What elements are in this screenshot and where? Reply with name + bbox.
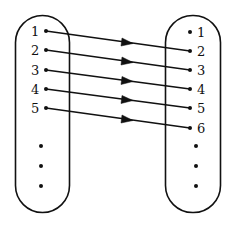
right-set-container: [166, 16, 221, 213]
left-ellipsis-dot: [39, 164, 43, 168]
arrowhead-icon: [121, 38, 133, 46]
right-ellipsis-dot: [194, 184, 198, 188]
left-ellipsis-dot: [39, 184, 43, 188]
right-ellipsis-dot: [194, 144, 198, 148]
arrow-3-to-4: [46, 70, 190, 89]
right-label-3: 3: [197, 63, 205, 78]
right-label-6: 6: [197, 121, 205, 136]
arrowhead-icon: [121, 77, 133, 85]
left-label-1: 1: [31, 24, 39, 39]
left-label-5: 5: [31, 101, 39, 116]
arrow-2-to-3: [46, 50, 190, 70]
arrowhead-icon: [121, 57, 133, 65]
arrow-5-to-6: [46, 108, 190, 128]
arrow-1-to-2: [46, 31, 190, 51]
right-label-1: 1: [197, 25, 205, 40]
mapping-arrows: [46, 31, 190, 128]
left-set-container: [16, 16, 70, 213]
left-set-elements: 1 2 3 4 5: [31, 24, 48, 188]
right-dot-1: [188, 30, 192, 34]
left-label-3: 3: [31, 63, 39, 78]
arrow-4-to-5: [46, 89, 190, 108]
right-set-elements: 1 2 3 4 5 6: [188, 25, 205, 188]
mapping-diagram: 1 2 3 4 5 1 2 3 4 5 6: [0, 0, 233, 226]
arrowhead-icon: [121, 96, 133, 104]
left-label-4: 4: [31, 82, 39, 97]
right-label-2: 2: [197, 44, 205, 59]
left-ellipsis-dot: [39, 144, 43, 148]
arrowhead-icon: [121, 115, 133, 123]
left-label-2: 2: [31, 43, 39, 58]
right-label-5: 5: [197, 101, 205, 116]
right-ellipsis-dot: [194, 164, 198, 168]
right-label-4: 4: [197, 82, 205, 97]
